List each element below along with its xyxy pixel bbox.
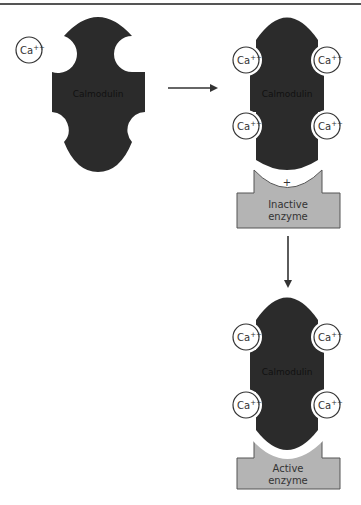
bound-calcium-ion: Ca++	[230, 389, 262, 421]
bound-calcium-ion: Ca++	[311, 44, 343, 76]
enzyme-label-line1: Active	[273, 463, 304, 474]
inactive-enzyme: + Inactive enzyme	[237, 170, 340, 228]
calmodulin-calcium-bound: Calmodulin Ca++ Ca++ Ca++ Ca++	[230, 18, 343, 171]
enzyme-label-line2: enzyme	[268, 211, 308, 222]
calmodulin-label: Calmodulin	[73, 89, 124, 99]
bound-calcium-ion: Ca++	[311, 389, 343, 421]
calmodulin-inactive: Calmodulin	[52, 17, 145, 172]
enzyme-label-line1: Inactive	[268, 199, 308, 210]
enzyme-label-line2: enzyme	[268, 475, 308, 486]
bound-calcium-ion: Ca++	[311, 110, 343, 142]
free-calcium-ion: Ca++	[16, 37, 45, 63]
bound-calcium-ion: Ca++	[311, 321, 343, 353]
calmodulin-enzyme-complex: Calmodulin Ca++ Ca++ Ca++ Ca++	[230, 298, 343, 460]
bound-calcium-ion: Ca++	[230, 110, 262, 142]
calmodulin-label: Calmodulin	[262, 89, 313, 99]
plus-sign: +	[283, 177, 291, 188]
bound-calcium-ion: Ca++	[230, 321, 262, 353]
calmodulin-diagram: Ca++ Calmodulin + Inactive enzyme Calmod…	[0, 0, 361, 505]
bound-calcium-ion: Ca++	[230, 44, 262, 76]
calmodulin-label: Calmodulin	[262, 367, 313, 377]
